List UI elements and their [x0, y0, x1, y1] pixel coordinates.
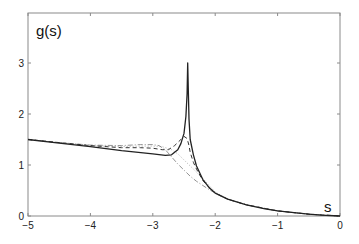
x-tick-label: 0 [337, 220, 343, 231]
y-tick-label: 2 [18, 109, 24, 120]
y-tick-label: 0 [18, 211, 24, 222]
plot-frame [28, 13, 340, 216]
y-axis-label: g(s) [36, 22, 62, 39]
x-axis-label: s [324, 198, 332, 215]
series-dashed [28, 136, 340, 216]
series-dash-dot [28, 140, 340, 217]
x-tick-label: −4 [85, 220, 97, 231]
y-tick-label: 3 [18, 58, 24, 69]
x-tick-label: −5 [22, 220, 34, 231]
x-tick-label: −1 [272, 220, 284, 231]
axis-ticks: −5−4−3−2−100123 [18, 13, 343, 231]
x-tick-label: −2 [209, 220, 221, 231]
series-lines [28, 63, 340, 216]
x-tick-label: −3 [147, 220, 159, 231]
plot-border [28, 13, 340, 216]
chart: −5−4−3−2−100123 g(s) s [0, 0, 359, 244]
series-solid [28, 63, 340, 216]
series-dotted [28, 140, 340, 217]
y-tick-label: 1 [18, 160, 24, 171]
